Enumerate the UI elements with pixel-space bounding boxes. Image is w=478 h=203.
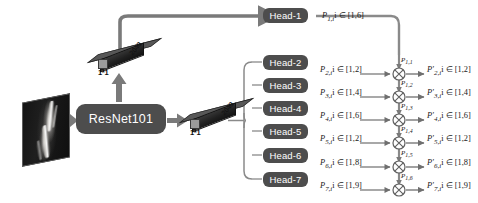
head-4[interactable]: Head-4 <box>263 101 308 116</box>
o5-sym: P′ <box>427 134 434 143</box>
arrow-backbone-to-conv-top <box>112 73 127 102</box>
head-1-label: Head-1 <box>270 10 302 21</box>
final-output-3: P′3,ii ∈ [1,4] <box>427 87 471 100</box>
head-output-lines <box>360 74 390 190</box>
final-output-4: P′4,ii ∈ [1,6] <box>427 110 471 123</box>
bus-label-4: P1,4 <box>401 125 413 134</box>
head-2[interactable]: Head-2 <box>263 55 308 70</box>
head-3-output-label: P3,ii ∈ [1,4] <box>320 87 362 100</box>
bus4-sub: 1,4 <box>405 128 412 134</box>
bus1-sub: 1,1 <box>405 59 412 65</box>
h1-range: i ∈ [1,6] <box>334 11 364 20</box>
head-7[interactable]: Head-7 <box>263 172 308 187</box>
o7-range: i ∈ [1,9] <box>441 181 471 190</box>
o4-sym: P′ <box>427 111 434 120</box>
h6-range: i ∈ [1,8] <box>332 158 362 167</box>
head-1[interactable]: Head-1 <box>263 8 308 23</box>
fanout-bracket <box>244 62 252 179</box>
h7-range: i ∈ [1,9] <box>332 181 362 190</box>
o3-range: i ∈ [1,4] <box>441 88 471 97</box>
conv-block-top[interactable]: 1*1 2048 <box>98 44 146 74</box>
o3-sym: P′ <box>427 88 434 97</box>
head-7-output-label: P7,ii ∈ [1,9] <box>320 180 362 193</box>
bus2-sub: 1,2 <box>405 82 412 88</box>
final-output-2: P′2,ii ∈ [1,2] <box>427 64 471 77</box>
h4-range: i ∈ [1,6] <box>332 111 362 120</box>
head-2-label: Head-2 <box>270 57 302 68</box>
head-3[interactable]: Head-3 <box>263 78 308 93</box>
bus-label-1: P1,1 <box>401 56 413 65</box>
o6-range: i ∈ [1,8] <box>441 158 471 167</box>
head-3-label: Head-3 <box>270 80 302 91</box>
head-4-label: Head-4 <box>270 103 302 114</box>
conv-mid-kernel-label: 1*1 <box>190 128 200 137</box>
xray-input-image <box>22 93 70 166</box>
head-6-output-label: P6,ii ∈ [1,8] <box>320 157 362 170</box>
h5-range: i ∈ [1,2] <box>332 134 362 143</box>
o4-range: i ∈ [1,6] <box>441 111 471 120</box>
head-5[interactable]: Head-5 <box>263 124 308 139</box>
backbone-label: ResNet101 <box>89 112 153 126</box>
final-output-7: P′7,ii ∈ [1,9] <box>427 180 471 193</box>
head-6[interactable]: Head-6 <box>263 148 308 163</box>
bus3-sub: 1,3 <box>405 105 412 111</box>
diagram-canvas: ResNet101 1*1 2048 1*1 2048 Head-1 Head-… <box>0 0 478 203</box>
conv-top-kernel-label: 1*1 <box>98 68 108 77</box>
o5-range: i ∈ [1,2] <box>441 134 471 143</box>
bus-label-5: P1,5 <box>401 149 413 158</box>
bus6-sub: 1,6 <box>405 175 412 181</box>
h2-range: i ∈ [1,2] <box>332 65 362 74</box>
head-5-label: Head-5 <box>270 126 302 137</box>
final-output-5: P′5,ii ∈ [1,2] <box>427 133 471 146</box>
conv-block-mid[interactable]: 1*1 2048 <box>190 104 238 134</box>
head-5-output-label: P5,ii ∈ [1,2] <box>320 133 362 146</box>
h3-range: i ∈ [1,4] <box>332 88 362 97</box>
bus5-sub: 1,5 <box>405 152 412 158</box>
head-1-output-label: P1,ii ∈ [1,6] <box>322 10 364 23</box>
bus-label-2: P1,2 <box>401 79 413 88</box>
backbone-resnet101[interactable]: ResNet101 <box>76 104 166 134</box>
head-7-label: Head-7 <box>270 174 302 185</box>
o2-range: i ∈ [1,2] <box>441 65 471 74</box>
head-4-output-label: P4,ii ∈ [1,6] <box>320 110 362 123</box>
o6-sym: P′ <box>427 158 434 167</box>
bracket-stubs <box>252 62 262 179</box>
o2-sym: P′ <box>427 65 434 74</box>
head-6-label: Head-6 <box>270 150 302 161</box>
bus-label-3: P1,3 <box>401 102 413 111</box>
head-2-output-label: P2,ii ∈ [1,2] <box>320 64 362 77</box>
bus-label-6: P1,6 <box>401 172 413 181</box>
o7-sym: P′ <box>427 181 434 190</box>
final-output-6: P′6,ii ∈ [1,8] <box>427 157 471 170</box>
